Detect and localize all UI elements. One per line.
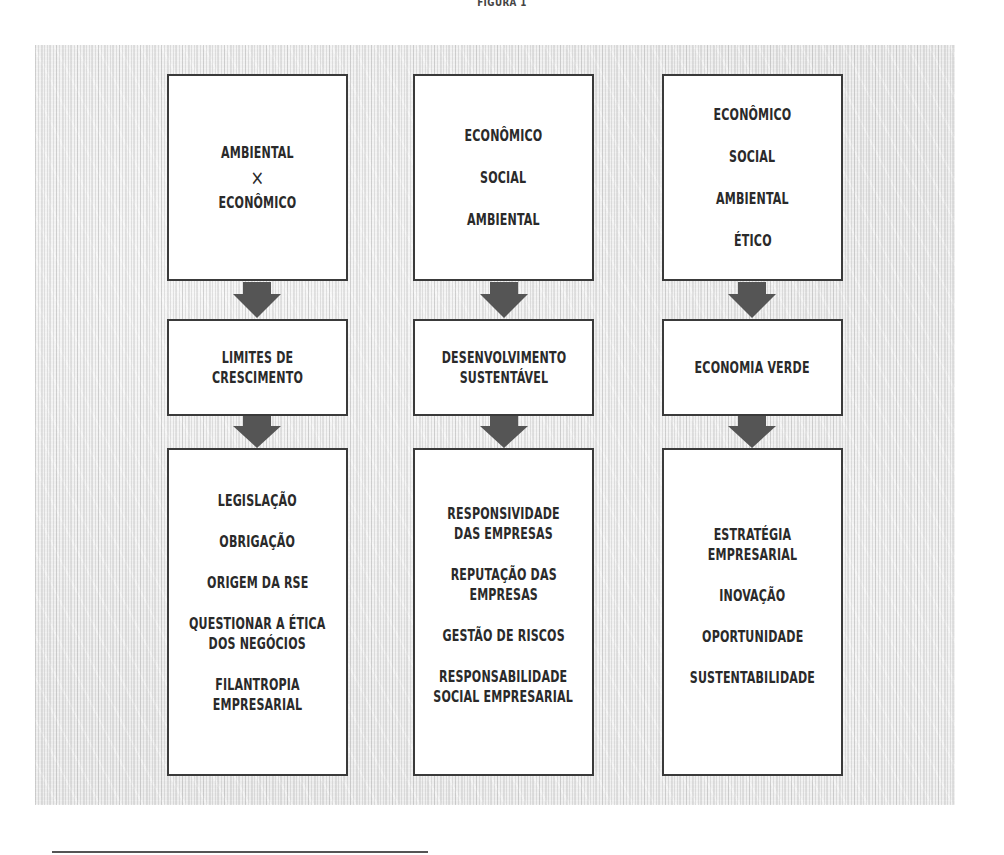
bottom-item: INOVAÇÃO: [719, 586, 785, 606]
bottom-item: ESTRATÉGIA EMPRESARIAL: [708, 525, 797, 565]
column-1-top-box: AMBIENTAL × ECONÔMICO: [167, 74, 348, 281]
top-item: SOCIAL: [480, 168, 526, 188]
column-3-middle-box: ECONOMIA VERDE: [662, 319, 843, 416]
times-symbol: ×: [251, 167, 265, 189]
down-arrow-icon: [480, 416, 528, 450]
top-item: AMBIENTAL: [221, 143, 294, 163]
column-2-middle-box: DESENVOLVIMENTO SUSTENTÁVEL: [413, 319, 594, 416]
down-arrow-icon: [233, 416, 281, 450]
column-1-bottom-box: LEGISLAÇÃO OBRIGAÇÃO ORIGEM DA RSE QUEST…: [167, 448, 348, 776]
bottom-item: OBRIGAÇÃO: [220, 532, 296, 552]
bottom-item: SUSTENTABILIDADE: [690, 668, 815, 688]
figure-title: FIGURA 1: [100, 0, 903, 9]
middle-label: DESENVOLVIMENTO SUSTENTÁVEL: [441, 348, 566, 388]
down-arrow-icon: [233, 282, 281, 316]
column-3-bottom-box: ESTRATÉGIA EMPRESARIAL INOVAÇÃO OPORTUNI…: [662, 448, 843, 776]
bottom-item: FILANTROPIA EMPRESARIAL: [213, 675, 302, 715]
top-item: AMBIENTAL: [467, 210, 540, 230]
middle-label: LIMITES DE CRESCIMENTO: [212, 348, 303, 388]
column-3-top-box: ECONÔMICO SOCIAL AMBIENTAL ÉTICO: [662, 74, 843, 281]
bottom-item: REPUTAÇÃO DAS EMPRESAS: [450, 565, 556, 605]
top-item: AMBIENTAL: [716, 189, 789, 209]
column-2-bottom-box: RESPONSIVIDADE DAS EMPRESAS REPUTAÇÃO DA…: [413, 448, 594, 776]
column-2-top-box: ECONÔMICO SOCIAL AMBIENTAL: [413, 74, 594, 281]
bottom-item: GESTÃO DE RISCOS: [442, 626, 564, 646]
bottom-item: LEGISLAÇÃO: [218, 491, 297, 511]
top-item: ECONÔMICO: [714, 105, 792, 125]
down-arrow-icon: [480, 282, 528, 316]
bottom-item: OPORTUNIDADE: [702, 627, 803, 647]
bottom-item: ORIGEM DA RSE: [207, 573, 308, 593]
top-item: ECONÔMICO: [465, 126, 543, 146]
top-item: SOCIAL: [729, 147, 775, 167]
top-item: ECONÔMICO: [219, 193, 297, 213]
bottom-item: RESPONSABILIDADE SOCIAL EMPRESARIAL: [434, 667, 574, 707]
top-item: ÉTICO: [734, 231, 772, 251]
middle-label: ECONOMIA VERDE: [695, 358, 810, 378]
down-arrow-icon: [728, 282, 776, 316]
down-arrow-icon: [728, 416, 776, 450]
bottom-item: QUESTIONAR A ÉTICA DOS NEGÓCIOS: [189, 614, 325, 654]
column-1-middle-box: LIMITES DE CRESCIMENTO: [167, 319, 348, 416]
footnote-divider: [52, 851, 428, 853]
bottom-item: RESPONSIVIDADE DAS EMPRESAS: [447, 504, 559, 544]
